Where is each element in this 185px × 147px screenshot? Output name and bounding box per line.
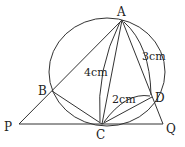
line-AQ [122, 20, 163, 124]
measure-AC: 4cm [84, 66, 108, 79]
label-P: P [4, 120, 12, 134]
label-Q: Q [166, 122, 176, 136]
label-A: A [116, 5, 126, 19]
label-C: C [96, 128, 105, 142]
geometry-diagram: A B C D P Q 4cm 3cm 2cm [0, 0, 185, 147]
line-BC [52, 91, 102, 124]
label-D: D [155, 91, 165, 105]
measure-AD: 3cm [142, 50, 166, 63]
label-B: B [38, 84, 47, 98]
measure-CD: 2cm [112, 93, 136, 106]
